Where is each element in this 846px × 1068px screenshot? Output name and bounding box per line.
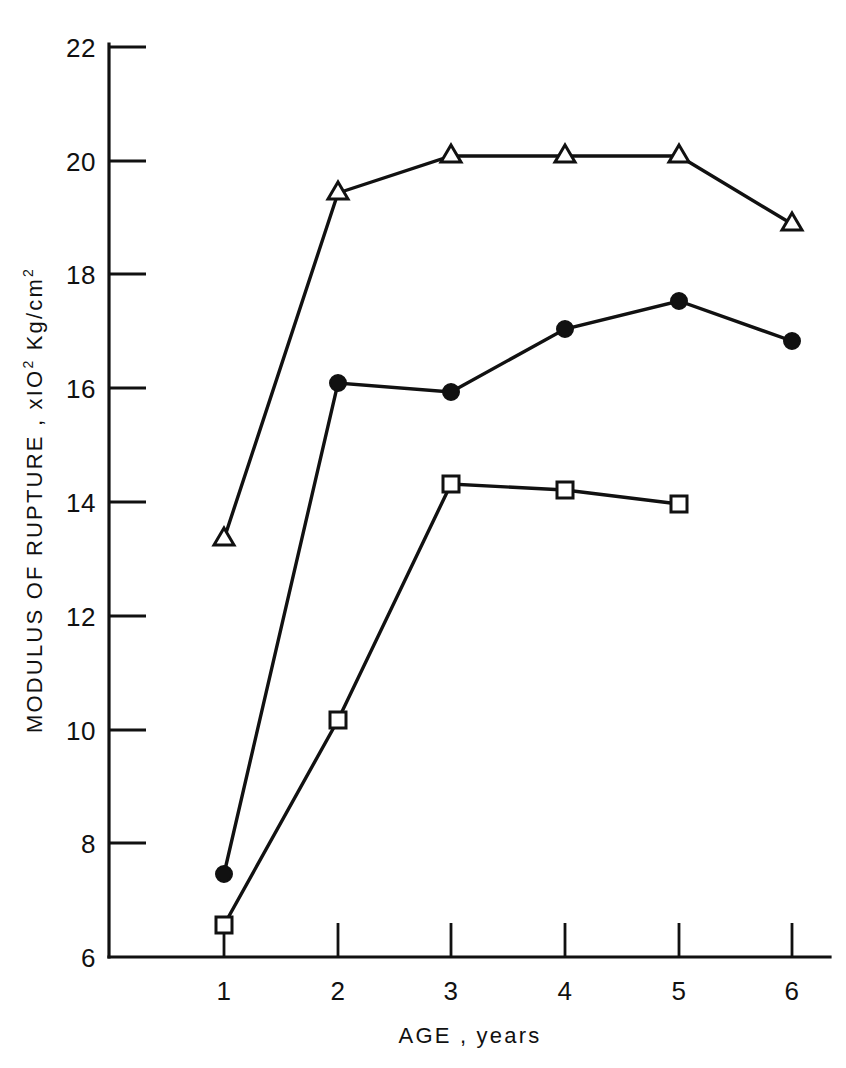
y-axis-title-sup1: 2 [20,359,36,369]
y-axis-title-sup2: 2 [20,267,36,277]
y-tick-label: 18 [66,260,96,290]
x-axis-title: AGE , years [399,1023,542,1048]
x-tick-label: 4 [558,976,573,1006]
y-tick-label: 22 [66,33,96,63]
chart-figure: 22 20 18 16 14 12 10 8 6 1 2 3 4 5 6 AGE… [0,0,846,1068]
y-tick-label: 20 [66,147,96,177]
x-tick-marks [224,923,792,957]
series-line-triangle [224,156,792,539]
series-markers-circle [216,293,800,882]
chart-canvas: 22 20 18 16 14 12 10 8 6 1 2 3 4 5 6 AGE… [0,0,846,1068]
y-tick-label: 16 [66,374,96,404]
x-tick-label: 1 [217,976,232,1006]
y-axis-title-main: MODULUS OF RUPTURE , xIO [22,369,47,734]
x-tick-label: 6 [785,976,800,1006]
series-markers-square [216,476,687,933]
x-tick-label: 2 [331,976,346,1006]
series-line-square [224,484,679,925]
y-tick-label: 10 [66,716,96,746]
y-axis-title-mid: Kg/cm [22,277,47,359]
y-axis-title: MODULUS OF RUPTURE , xIO2 Kg/cm2 [20,267,47,733]
y-tick-label: 6 [81,943,96,973]
y-tick-labels: 22 20 18 16 14 12 10 8 6 [66,33,96,973]
x-tick-labels: 1 2 3 4 5 6 [217,976,800,1006]
svg-text:MODULUS OF RUPTURE , xIO2 Kg: MODULUS OF RUPTURE , xIO2 Kg/cm2 [20,267,47,733]
x-tick-label: 5 [672,976,687,1006]
y-tick-label: 8 [81,829,96,859]
series-line-circle [224,301,792,874]
x-tick-label: 3 [444,976,459,1006]
series-markers-triangle [214,145,802,545]
y-tick-label: 14 [66,488,96,518]
y-tick-label: 12 [66,602,96,632]
y-tick-marks [109,47,146,843]
